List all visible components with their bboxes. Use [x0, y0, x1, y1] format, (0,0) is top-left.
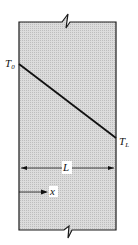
wall-diagram: [0, 0, 138, 245]
right-temp-subscript: L: [125, 141, 129, 149]
thickness-label: L: [63, 162, 69, 173]
left-temperature-label: T0: [5, 58, 15, 71]
x-coordinate-label: x: [50, 186, 55, 197]
right-temperature-label: TL: [119, 136, 129, 149]
left-temp-subscript: 0: [11, 63, 15, 71]
